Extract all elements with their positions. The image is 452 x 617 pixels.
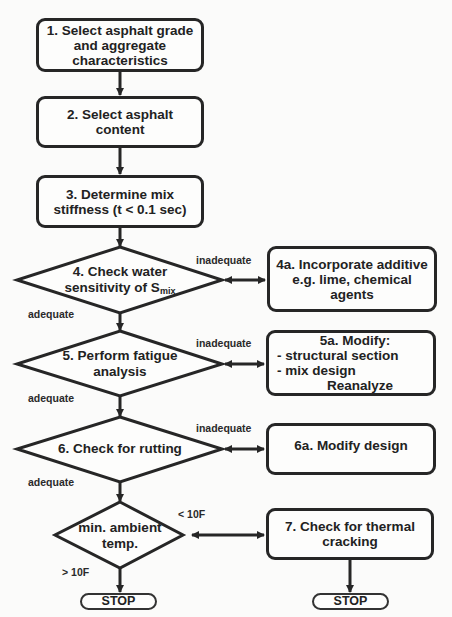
step-4a-line: agents [330,287,374,302]
stop-terminal-left: STOP [80,593,157,610]
step-7-line: 7. Check for thermal [285,519,415,534]
label-inadequate-5: inadequate [196,337,251,349]
decision-5-line: 5. Perform fatigue [40,348,200,364]
step-5a-line: Reanalyze [327,378,433,393]
step-2-box: 2. Select asphalt content [36,96,204,148]
step-2-line: content [96,122,145,137]
decision-temp-line: temp. [70,536,170,552]
decision-5-line: analysis [40,364,200,380]
step-1-line: characteristics [72,53,167,68]
step-5a-line: - mix design [277,363,356,378]
decision-6-text: 6. Check for rutting [40,441,200,457]
label-adequate-5: adequate [28,392,74,404]
step-6a-line: 6a. Modify design [294,438,407,453]
decision-6-line: 6. Check for rutting [40,441,200,457]
label-adequate-6: adequate [28,476,74,488]
decision-4-line: sensitivity of Smix [40,280,200,299]
decision-4-line: 4. Check water [40,264,200,280]
step-1-box: 1. Select asphalt grade and aggregate ch… [36,18,204,72]
step-5a-line: - structural section [277,348,399,363]
decision-4-line-main: sensitivity of S [65,280,160,295]
step-4a-line: e.g. lime, chemical [292,272,411,287]
step-7-box: 7. Check for thermal cracking [266,508,434,560]
step-1-line: 1. Select asphalt grade [47,23,193,38]
label-adequate-4: adequate [28,308,74,320]
label-gt-10f: > 10F [62,566,89,578]
step-1-line: and aggregate [74,38,166,53]
step-7-line: cracking [322,534,378,549]
label-inadequate-4: inadequate [196,254,251,266]
decision-4-text: 4. Check water sensitivity of Smix [40,264,200,299]
step-3-line: 3. Determine mix [66,187,174,202]
decision-temp-text: min. ambient temp. [70,520,170,552]
decision-5-text: 5. Perform fatigue analysis [40,348,200,380]
step-4a-line: 4a. Incorporate additive [276,257,428,272]
step-6a-box: 6a. Modify design [266,423,436,475]
step-3-box: 3. Determine mix stiffness (t < 0.1 sec) [36,175,204,228]
label-lt-10f: < 10F [178,508,205,520]
decision-temp-line: min. ambient [70,520,170,536]
step-5a-line: 5a. Modify: [320,333,391,348]
stop-terminal-right: STOP [312,593,389,610]
smix-subscript: mix [160,286,176,296]
step-2-line: 2. Select asphalt [67,107,173,122]
step-5a-box: 5a. Modify: - structural section - mix d… [266,330,436,396]
step-4a-box: 4a. Incorporate additive e.g. lime, chem… [267,246,437,312]
step-3-line: stiffness (t < 0.1 sec) [53,202,186,217]
label-inadequate-6: inadequate [196,422,251,434]
